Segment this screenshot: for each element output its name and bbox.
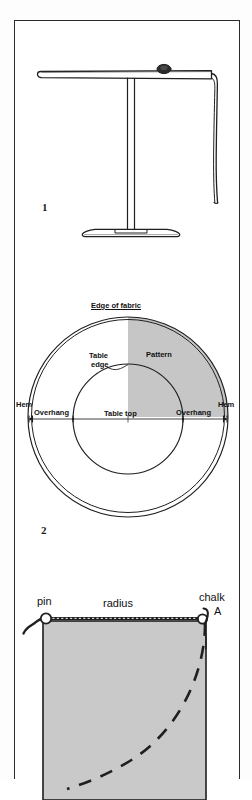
label-table-edge-line2: edge [91,361,109,369]
label-hem-right: Hem [218,401,234,409]
label-edge-of-fabric: Edge of fabric [91,302,141,310]
figure-1-table-illustration [15,21,239,281]
label-table-top: Table top [104,410,137,418]
label-hem-left: Hem [16,401,32,409]
table-knob-highlight [160,66,167,71]
label-point-a: A [214,605,221,617]
folded-fabric-square [43,621,206,800]
pin-head [41,613,51,623]
draped-cloth-right-inner [212,79,214,203]
label-overhang-left: Overhang [34,409,69,417]
label-pin: pin [37,595,52,607]
figure-1-svg [15,21,241,281]
draped-cloth-hem [214,202,218,203]
label-overhang-right: Overhang [176,409,211,417]
plate-frame: Edge of fabric Pattern Table edge Hem Ov… [14,20,240,779]
label-radius: radius [103,597,133,609]
label-chalk: chalk [199,591,225,603]
figure-number-1: 1 [42,201,48,213]
figure-number-2: 2 [41,524,47,536]
figure-2-circle-diagram: Edge of fabric Pattern Table edge Hem Ov… [15,289,239,551]
figure-2-svg [15,289,241,551]
figure-3-radius-marking: pin radius chalk A [15,561,239,800]
label-pattern: Pattern [146,351,172,359]
